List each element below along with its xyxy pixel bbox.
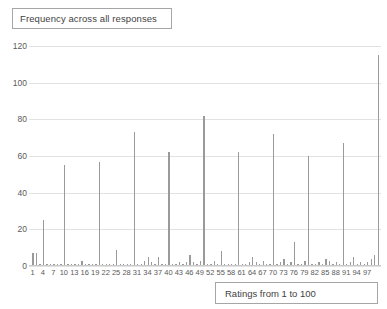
x-tick-label: 70 [269, 268, 277, 277]
plot-area [29, 46, 381, 266]
x-tick-label: 28 [122, 268, 130, 277]
x-tick-label: 55 [217, 268, 225, 277]
x-tick-label: 10 [60, 268, 68, 277]
bar [134, 132, 135, 266]
x-tick-label: 7 [51, 268, 55, 277]
bar [221, 251, 222, 266]
chart-title-text: Frequency across all responses [20, 13, 157, 24]
x-tick-label: 97 [363, 268, 371, 277]
x-tick-label: 4 [41, 268, 45, 277]
x-tick-label: 43 [175, 268, 183, 277]
x-tick-label: 25 [112, 268, 120, 277]
x-tick-label: 13 [70, 268, 78, 277]
x-tick-label: 37 [154, 268, 162, 277]
x-tick-label: 91 [342, 268, 350, 277]
bar [168, 152, 169, 266]
x-tick-label: 64 [248, 268, 256, 277]
x-tick-label: 40 [164, 268, 172, 277]
x-tick-label: 82 [311, 268, 319, 277]
y-tick-label: 20 [3, 224, 27, 234]
x-axis-tick-labels: 1471013161922252831343740434649525558616… [29, 268, 381, 281]
chart-title-box: Frequency across all responses [12, 8, 172, 29]
x-tick-label: 22 [101, 268, 109, 277]
x-tick-label: 85 [321, 268, 329, 277]
frequency-bar-chart: Frequency across all responses 020406080… [0, 0, 387, 309]
bar [203, 116, 204, 266]
bar [116, 250, 117, 267]
y-tick-label: 0 [3, 261, 27, 271]
y-axis-tick-labels: 020406080100120 [0, 46, 27, 266]
x-tick-label: 79 [300, 268, 308, 277]
bar [99, 162, 100, 267]
x-tick-label: 1 [30, 268, 34, 277]
bar [273, 134, 274, 266]
x-tick-label: 58 [227, 268, 235, 277]
x-tick-label: 67 [258, 268, 266, 277]
x-tick-label: 94 [352, 268, 360, 277]
bar [238, 152, 239, 266]
x-tick-label: 19 [91, 268, 99, 277]
bar [294, 242, 295, 266]
bar [64, 165, 65, 266]
bar [308, 156, 309, 266]
x-tick-label: 31 [133, 268, 141, 277]
bar [378, 55, 379, 266]
bar [43, 220, 44, 266]
y-tick-label: 80 [3, 114, 27, 124]
bar [343, 143, 344, 266]
y-tick-label: 60 [3, 151, 27, 161]
x-axis-title-text: Ratings from 1 to 100 [225, 288, 316, 299]
x-tick-label: 49 [196, 268, 204, 277]
bar-series [29, 46, 381, 266]
y-tick-label: 40 [3, 188, 27, 198]
x-tick-label: 88 [332, 268, 340, 277]
x-tick-label: 16 [81, 268, 89, 277]
x-axis-line [29, 265, 381, 266]
gridline [29, 266, 381, 267]
y-tick-label: 120 [3, 41, 27, 51]
x-tick-label: 34 [143, 268, 151, 277]
x-axis-title-box: Ratings from 1 to 100 [215, 282, 378, 304]
x-tick-label: 73 [279, 268, 287, 277]
x-tick-label: 76 [290, 268, 298, 277]
x-tick-label: 61 [237, 268, 245, 277]
y-tick-label: 100 [3, 78, 27, 88]
x-tick-label: 52 [206, 268, 214, 277]
x-tick-label: 46 [185, 268, 193, 277]
